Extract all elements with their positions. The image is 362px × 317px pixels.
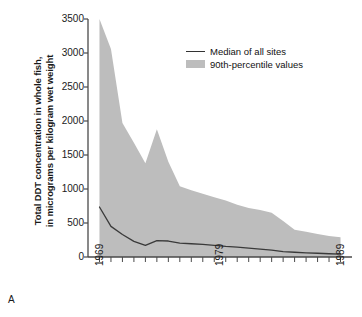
legend-label-median: Median of all sites — [210, 46, 286, 57]
panel-letter: A — [8, 294, 15, 305]
legend-swatch-icon — [186, 60, 205, 68]
x-tick-label-1979: 1979 — [215, 244, 225, 266]
legend-label-percentile: 90th-percentile values — [210, 59, 303, 70]
x-tick-label-1989: 1989 — [336, 244, 346, 266]
legend-line-icon — [186, 51, 205, 52]
ddt-concentration-figure: Total DDT concentration in whole fish, i… — [0, 0, 362, 317]
legend-item-median: Median of all sites — [186, 45, 303, 57]
chart-plot-area — [0, 0, 362, 317]
x-tick-label-1969: 1969 — [95, 244, 105, 266]
chart-legend: Median of all sites 90th-percentile valu… — [186, 45, 303, 71]
legend-item-percentile: 90th-percentile values — [186, 58, 303, 70]
